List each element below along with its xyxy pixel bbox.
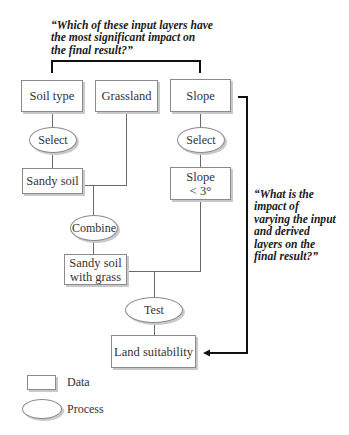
line-sandysoil-right [83,185,127,186]
data-sandy-soil-grass: Sandy soil with grass [64,254,127,285]
legend-process-label: Process [67,402,104,417]
line-slope3-down [200,200,201,272]
legend-data-swatch [27,375,56,390]
data-sandy-soil: Sandy soil [22,168,83,194]
line-grass-right [127,271,201,272]
line-soiltype-select [52,112,53,127]
line-combine-down [93,241,94,254]
line-to-test [154,271,155,297]
process-combine: Combine [70,215,118,241]
process-test: Test [125,297,183,323]
line-select-sandysoil [52,153,53,168]
line-select-slope3 [200,153,201,167]
legend-process-swatch [22,399,62,419]
line-to-combine [93,185,94,215]
data-soil-type: Soil type [21,80,83,112]
data-grassland: Grassland [95,80,158,112]
line-grassland-down [126,112,127,186]
process-select-right: Select [177,127,225,153]
arrowhead-icon [0,0,349,435]
data-land-suitability: Land suitability [111,335,196,368]
data-slope: Slope [170,79,231,112]
process-select-left: Select [29,127,77,153]
line-slope-select [200,112,201,127]
data-slope-lt3: Slope < 3° [170,167,231,200]
legend-data-label: Data [67,375,90,390]
line-test-down [154,323,155,335]
